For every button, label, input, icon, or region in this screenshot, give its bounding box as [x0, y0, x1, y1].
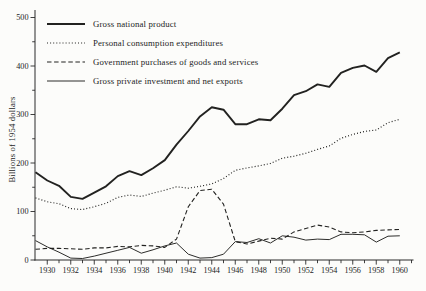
series-line-1 — [36, 119, 400, 209]
legend-item-government: Government purchases of goods and servic… — [46, 53, 258, 72]
legend-item-gnp: Gross national product — [46, 15, 258, 34]
y-tick-label: 300 — [16, 110, 28, 119]
x-tick-label: 1958 — [368, 266, 384, 275]
legend-label-consumption: Personal consumption expenditures — [93, 38, 223, 48]
legend-item-consumption: Personal consumption expenditures — [46, 34, 258, 53]
x-tick-label: 1952 — [298, 266, 314, 275]
legend-item-investment: Gross private investment and net exports — [46, 71, 258, 90]
y-axis-title: Billions of 1954 dollars — [7, 84, 18, 196]
economic-time-series-figure: 0100200300400500193019321934193619381940… — [0, 0, 426, 291]
y-tick-label: 200 — [16, 159, 28, 168]
investment-line-swatch — [46, 77, 86, 85]
x-tick-label: 1934 — [86, 266, 102, 275]
x-tick-label: 1936 — [110, 266, 126, 275]
consumption-line-swatch — [46, 39, 86, 47]
x-tick-label: 1948 — [251, 266, 267, 275]
x-tick-label: 1954 — [321, 266, 337, 275]
legend: Gross national product Personal consumpt… — [46, 15, 258, 90]
government-line-swatch — [46, 58, 86, 66]
x-tick-label: 1940 — [157, 266, 173, 275]
x-tick-label: 1930 — [39, 266, 55, 275]
x-tick-label: 1950 — [274, 266, 290, 275]
y-tick-label: 100 — [16, 207, 28, 216]
x-tick-label: 1942 — [180, 266, 196, 275]
x-tick-label: 1938 — [133, 266, 149, 275]
y-tick-label: 400 — [16, 62, 28, 71]
legend-label-investment: Gross private investment and net exports — [93, 76, 243, 86]
x-tick-label: 1946 — [227, 266, 243, 275]
x-tick-label: 1932 — [63, 266, 79, 275]
y-tick-label: 500 — [16, 13, 28, 22]
x-tick-label: 1960 — [392, 266, 408, 275]
series-line-3 — [36, 234, 400, 258]
x-tick-label: 1944 — [204, 266, 220, 275]
x-tick-label: 1956 — [345, 266, 361, 275]
y-tick-label: 0 — [24, 256, 28, 265]
gnp-line-swatch — [46, 20, 86, 28]
legend-label-gnp: Gross national product — [93, 19, 176, 29]
legend-label-government: Government purchases of goods and servic… — [93, 57, 258, 67]
series-line-2 — [36, 189, 400, 249]
